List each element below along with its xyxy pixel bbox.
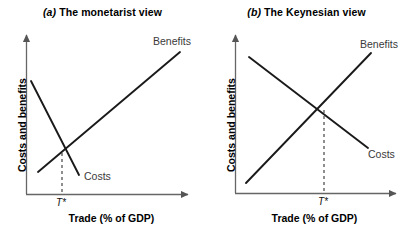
panel-a-y-axis-label: Costs and benefits bbox=[16, 78, 28, 172]
panel-b-benefits-label: Benefits bbox=[360, 38, 398, 50]
chart-panel-b: (b) The Keynesian view Bene bbox=[204, 0, 409, 235]
panel-b-y-axis-label: Costs and benefits bbox=[225, 78, 237, 172]
panel-a-tstar-label: T* bbox=[56, 197, 66, 208]
figure-container: (a) The monetarist view Ben bbox=[0, 0, 409, 235]
panel-a-x-axis-label: Trade (% of GDP) bbox=[0, 212, 205, 224]
panel-b-series-costs bbox=[249, 57, 368, 148]
panel-b-series-benefits bbox=[246, 53, 371, 183]
panel-a-series-benefits bbox=[38, 52, 180, 172]
panel-b-tstar-label: T* bbox=[318, 196, 328, 207]
panel-b-costs-label: Costs bbox=[368, 148, 395, 160]
panel-a-series-costs bbox=[31, 81, 79, 175]
chart-panel-a: (a) The monetarist view Ben bbox=[0, 0, 205, 235]
panel-a-costs-label: Costs bbox=[84, 170, 111, 182]
panel-b-x-axis-label: Trade (% of GDP) bbox=[204, 212, 409, 224]
panel-a-benefits-label: Benefits bbox=[153, 35, 191, 47]
